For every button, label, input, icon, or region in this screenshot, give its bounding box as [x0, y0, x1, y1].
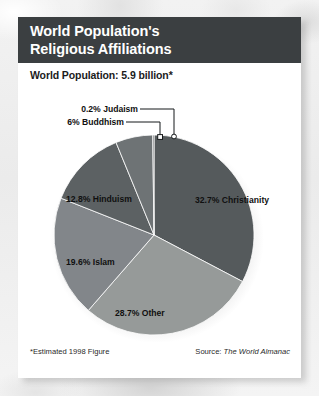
callout-label-buddhism: 6% Buddhism [67, 117, 124, 127]
slice-label-other: 28.7% Other [115, 308, 165, 318]
page-title-line-1: World Population's [30, 22, 289, 40]
card-header: World Population's Religious Affiliation… [18, 17, 301, 63]
source-credit: Source: The World Almanac [195, 347, 290, 356]
page-title-line-2: Religious Affiliations [30, 40, 289, 58]
infographic-card: World Population's Religious Affiliation… [18, 17, 301, 378]
slice-label-hinduism: 12.8% Hinduism [66, 194, 132, 204]
pie-chart-svg: 0.2% Judaism 6% Buddhism 32.7% Christian… [18, 87, 301, 342]
pie-chart: 0.2% Judaism 6% Buddhism 32.7% Christian… [18, 87, 301, 342]
subtitle-world-population: World Population: 5.9 billion* [30, 69, 173, 81]
buddhism-leader-endpoint [158, 135, 163, 140]
slice-label-islam: 19.6% Islam [66, 257, 115, 267]
judaism-leader-endpoint [172, 134, 177, 139]
source-title: The World Almanac [224, 347, 290, 356]
slice-label-christianity: 32.7% Christianity [195, 195, 269, 205]
pie-slices [54, 135, 254, 335]
source-label: Source: [195, 347, 223, 356]
judaism-leader-line [140, 109, 174, 137]
card-footer: *Estimated 1998 Figure Source: The World… [18, 347, 301, 377]
footnote-estimate: *Estimated 1998 Figure [30, 347, 109, 356]
callout-label-judaism: 0.2% Judaism [81, 104, 138, 114]
